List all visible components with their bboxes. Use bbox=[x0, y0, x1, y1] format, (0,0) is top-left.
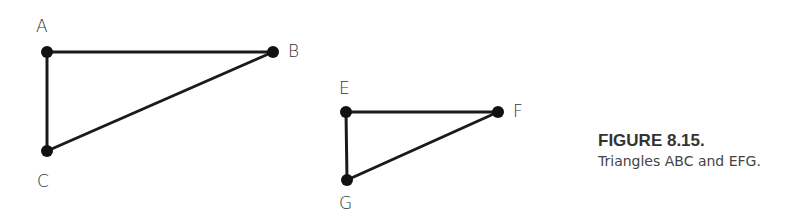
label-a: A bbox=[36, 16, 48, 36]
triangle-efg bbox=[346, 112, 498, 180]
segment-eg bbox=[346, 112, 347, 180]
segment-gf bbox=[347, 112, 498, 180]
figure-caption: Triangles ABC and EFG. bbox=[598, 153, 761, 169]
vertex-f-point bbox=[492, 106, 504, 118]
label-c: C bbox=[37, 171, 49, 191]
triangle-abc bbox=[47, 52, 273, 151]
vertex-g-point bbox=[341, 174, 353, 186]
segment-cb bbox=[47, 52, 273, 151]
label-f: F bbox=[513, 101, 523, 121]
figure-title: FIGURE 8.15. bbox=[598, 131, 705, 151]
triangles-diagram bbox=[0, 0, 787, 217]
vertex-b-point bbox=[267, 46, 279, 58]
vertex-e-point bbox=[340, 106, 352, 118]
label-g: G bbox=[339, 193, 352, 213]
label-e: E bbox=[339, 78, 350, 98]
vertex-a-point bbox=[41, 46, 53, 58]
label-b: B bbox=[288, 41, 299, 61]
vertex-c-point bbox=[41, 145, 53, 157]
